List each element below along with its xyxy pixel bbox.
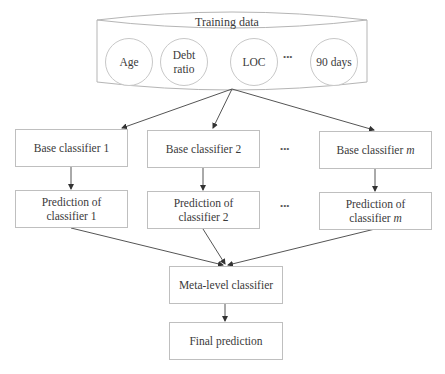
base-classifier-label: Base classifier bbox=[166, 143, 236, 155]
feature-label: LOC bbox=[243, 55, 266, 69]
prediction-line2: classifier bbox=[349, 212, 393, 224]
base-classifier-index: 1 bbox=[103, 142, 109, 154]
prediction-line1: Prediction of bbox=[346, 197, 406, 211]
training-data-title: Training data bbox=[195, 15, 259, 30]
base-classifier-2: Base classifier 2 bbox=[147, 130, 260, 168]
prediction-classifier-2: Prediction of classifier 2 bbox=[147, 191, 260, 229]
feature-label: 90 days bbox=[316, 55, 351, 69]
column-ellipsis-prediction: ••• bbox=[280, 201, 289, 211]
feature-label-line2: ratio bbox=[173, 62, 194, 76]
prediction-line2: classifier bbox=[46, 210, 90, 222]
meta-classifier-label: Meta-level classifier bbox=[179, 278, 273, 292]
base-classifier-index: 2 bbox=[235, 143, 241, 155]
feature-label: Age bbox=[119, 55, 138, 69]
prediction-line1: Prediction of bbox=[174, 196, 234, 210]
feature-90-days: 90 days bbox=[310, 38, 358, 86]
base-classifier-m: Base classifier m bbox=[319, 131, 432, 169]
prediction-line2: classifier bbox=[178, 211, 222, 223]
final-prediction: Final prediction bbox=[169, 322, 283, 360]
prediction-index: 2 bbox=[223, 211, 229, 223]
diagram-connectors bbox=[0, 0, 445, 374]
prediction-index: 1 bbox=[91, 210, 97, 222]
feature-age: Age bbox=[105, 38, 153, 86]
feature-loc: LOC bbox=[230, 38, 278, 86]
prediction-classifier-m: Prediction of classifier m bbox=[319, 192, 432, 230]
base-classifier-index: m bbox=[406, 144, 414, 156]
prediction-line1: Prediction of bbox=[42, 195, 102, 209]
feature-debt-ratio: Debt ratio bbox=[160, 38, 208, 86]
meta-level-classifier: Meta-level classifier bbox=[169, 266, 283, 304]
final-prediction-label: Final prediction bbox=[189, 334, 262, 348]
column-ellipsis-base: ••• bbox=[280, 144, 289, 154]
feature-ellipsis: ••• bbox=[283, 52, 292, 62]
prediction-index: m bbox=[394, 212, 402, 224]
base-classifier-label: Base classifier bbox=[34, 142, 104, 154]
base-classifier-label: Base classifier bbox=[337, 144, 407, 156]
feature-label-line1: Debt bbox=[173, 48, 195, 62]
prediction-classifier-1: Prediction of classifier 1 bbox=[15, 190, 128, 228]
base-classifier-1: Base classifier 1 bbox=[15, 129, 128, 167]
